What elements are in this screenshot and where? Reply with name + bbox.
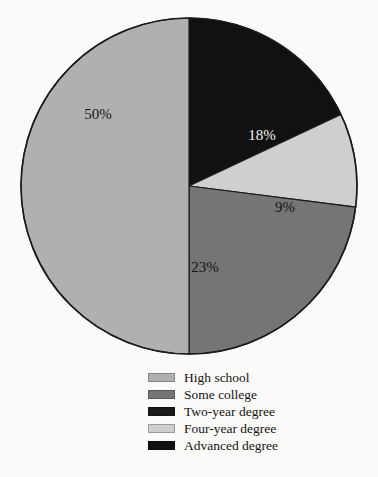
pie-slice-data-label: 9%	[275, 199, 295, 215]
legend-item-label: Advanced degree	[184, 437, 278, 454]
pie-plot-area: 18%9%23%50%	[0, 0, 378, 365]
pie-slice-data-label: 23%	[191, 259, 219, 275]
legend-color-swatch	[148, 424, 175, 433]
legend-item-label: Some college	[184, 386, 257, 403]
legend-item-label: Four-year degree	[184, 420, 276, 437]
pie-slice-group	[21, 18, 357, 354]
legend-item: Some college	[148, 386, 348, 403]
legend-item-label: High school	[184, 369, 250, 386]
chart-legend: High schoolSome collegeTwo-year degreeFo…	[148, 369, 348, 454]
legend-item: Four-year degree	[148, 420, 348, 437]
pie-chart-figure: 18%9%23%50% High schoolSome collegeTwo-y…	[0, 0, 378, 477]
legend-item: Advanced degree	[148, 437, 348, 454]
pie-slice	[21, 18, 189, 354]
legend-color-swatch	[148, 407, 175, 416]
legend-color-swatch	[148, 390, 175, 399]
legend-item: Two-year degree	[148, 403, 348, 420]
legend-item: High school	[148, 369, 348, 386]
legend-item-label: Two-year degree	[184, 403, 275, 420]
legend-color-swatch	[148, 441, 175, 450]
pie-slice-data-label: 50%	[84, 106, 112, 122]
legend-color-swatch	[148, 373, 175, 382]
pie-svg: 18%9%23%50%	[0, 0, 378, 365]
pie-slice-data-label: 18%	[248, 127, 276, 143]
